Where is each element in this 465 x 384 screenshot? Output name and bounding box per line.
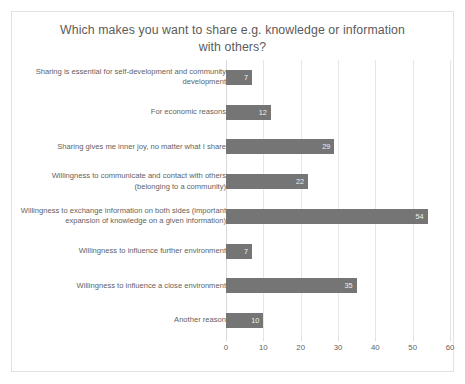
chart-row: For economic reasons12 [12,95,453,130]
bar-series: Sharing is essential for self-developmen… [12,60,453,338]
bar[interactable]: 29 [226,139,334,154]
x-tick-label: 50 [408,343,417,352]
category-label: Willingness to influence further environ… [20,246,226,257]
x-tick-mark [263,338,264,341]
x-tick-mark [226,338,227,341]
x-tick-label: 30 [334,343,343,352]
bar-container: 7 [226,234,252,269]
bar-value-label: 54 [415,212,427,221]
chart-row: Sharing gives me inner joy, no matter wh… [12,130,453,165]
bar-value-label: 29 [322,142,334,151]
bar-container: 35 [226,269,357,304]
chart-panel: Which makes you want to share e.g. knowl… [11,11,454,372]
bar-container: 29 [226,130,334,165]
bar[interactable]: 12 [226,105,271,120]
x-tick-mark [338,338,339,341]
category-label: Sharing is essential for self-developmen… [20,67,226,88]
category-label: For economic reasons [20,107,226,118]
bar-container: 22 [226,164,308,199]
chart-title: Which makes you want to share e.g. knowl… [30,22,435,56]
bar-value-label: 7 [244,73,252,82]
bar-value-label: 10 [251,316,263,325]
bar-container: 7 [226,60,252,95]
x-tick-label: 20 [296,343,305,352]
bar[interactable]: 35 [226,278,357,293]
category-label: Willingness to communicate and contact w… [20,171,226,192]
x-tick-label: 60 [446,343,455,352]
bar-value-label: 12 [259,108,271,117]
bar-container: 54 [226,199,428,234]
bar-container: 12 [226,95,271,130]
bar[interactable]: 10 [226,313,263,328]
bar-value-label: 35 [345,281,357,290]
bar-value-label: 7 [244,247,252,256]
x-tick-label: 40 [371,343,380,352]
x-axis: 0102030405060 [226,338,450,362]
category-label: Sharing gives me inner joy, no matter wh… [20,142,226,153]
x-tick-label: 10 [259,343,268,352]
plot-area: Sharing is essential for self-developmen… [12,60,453,371]
chart-row: Another reason10 [12,303,453,338]
x-tick-mark [375,338,376,341]
x-tick-mark [413,338,414,341]
bar-value-label: 22 [296,177,308,186]
bar[interactable]: 54 [226,209,428,224]
chart-title-line-1: Which makes you want to share e.g. knowl… [30,22,435,39]
chart-row: Sharing is essential for self-developmen… [12,60,453,95]
chart-row: Willingness to influence further environ… [12,234,453,269]
chart-row: Willingness to exchange information on b… [12,199,453,234]
bar[interactable]: 7 [226,244,252,259]
bar-container: 10 [226,303,263,338]
category-label: Willingness to exchange information on b… [20,206,226,227]
x-tick-mark [450,338,451,341]
bar[interactable]: 7 [226,70,252,85]
x-tick-mark [301,338,302,341]
chart-row: Willingness to influence a close environ… [12,269,453,304]
chart-row: Willingness to communicate and contact w… [12,164,453,199]
category-label: Another reason [20,315,226,326]
category-label: Willingness to influence a close environ… [20,281,226,292]
bar[interactable]: 22 [226,174,308,189]
chart-title-line-2: with others? [30,39,435,56]
x-tick-label: 0 [224,343,228,352]
